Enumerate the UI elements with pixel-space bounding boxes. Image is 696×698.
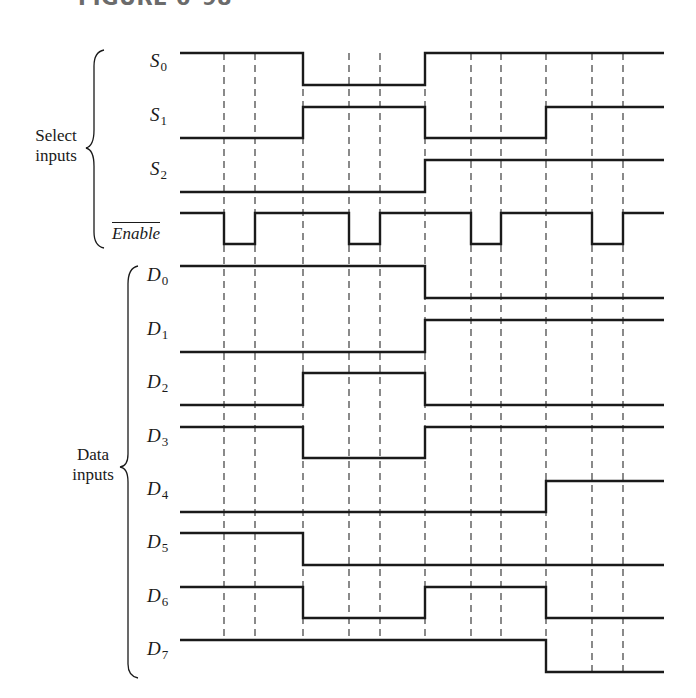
signal-label-d7: D7 (147, 638, 168, 663)
waveforms (180, 53, 664, 672)
select-inputs-label: Select inputs (26, 126, 86, 166)
signal-label-d6: D6 (147, 585, 168, 610)
waveform-s2 (180, 160, 664, 192)
signal-name: S (150, 104, 160, 125)
signal-label-d3: D3 (147, 425, 168, 450)
data-inputs-label: Data inputs (66, 445, 120, 485)
signal-subscript: 6 (162, 594, 169, 609)
signal-label-s1: S1 (150, 104, 167, 129)
signal-label-d5: D5 (147, 531, 168, 556)
signal-name: Enable (112, 222, 160, 243)
waveform-d1 (180, 320, 664, 352)
signal-label-s0: S0 (150, 50, 167, 75)
waveform-d3 (180, 427, 664, 458)
signal-subscript: 1 (161, 113, 168, 128)
waveform-d0 (180, 266, 664, 298)
signal-name: D (147, 425, 161, 446)
signal-subscript: 0 (162, 273, 169, 288)
signal-label-d2: D2 (147, 371, 168, 396)
signal-subscript: 0 (161, 59, 168, 74)
signal-subscript: 7 (162, 647, 169, 662)
signal-subscript: 2 (161, 167, 168, 182)
select-brace-icon (86, 50, 104, 248)
data-label-line2: inputs (66, 465, 120, 485)
signal-name: D (147, 638, 161, 659)
waveform-s1 (180, 107, 664, 138)
signal-subscript: 3 (162, 434, 169, 449)
signal-name: D (147, 478, 161, 499)
signal-subscript: 1 (162, 327, 169, 342)
waveform-d4 (180, 481, 664, 512)
data-brace-icon (120, 266, 138, 678)
signal-name: S (150, 158, 160, 179)
timing-diagram (0, 0, 696, 698)
waveform-d2 (180, 373, 664, 405)
dashed-guide-lines (224, 53, 623, 672)
waveform-d7 (180, 640, 664, 672)
waveform-s0 (180, 53, 664, 85)
signal-name: D (147, 585, 161, 606)
signal-label-d4: D4 (147, 478, 168, 503)
signal-subscript: 4 (162, 487, 169, 502)
waveform-enable (180, 213, 664, 244)
signal-subscript: 2 (162, 380, 169, 395)
waveform-d6 (180, 587, 664, 618)
select-label-line1: Select (26, 126, 86, 146)
signal-name: S (150, 50, 160, 71)
signal-name: D (147, 264, 161, 285)
signal-label-s2: S2 (150, 158, 167, 183)
waveform-d5 (180, 533, 664, 565)
signal-label-d0: D0 (147, 264, 168, 289)
signal-name: D (147, 531, 161, 552)
select-label-line2: inputs (26, 146, 86, 166)
signal-label-d1: D1 (147, 318, 168, 343)
signal-name: D (147, 371, 161, 392)
signal-subscript: 5 (162, 540, 169, 555)
signal-label-enable: Enable (112, 224, 160, 244)
signal-name: D (147, 318, 161, 339)
data-label-line1: Data (66, 445, 120, 465)
